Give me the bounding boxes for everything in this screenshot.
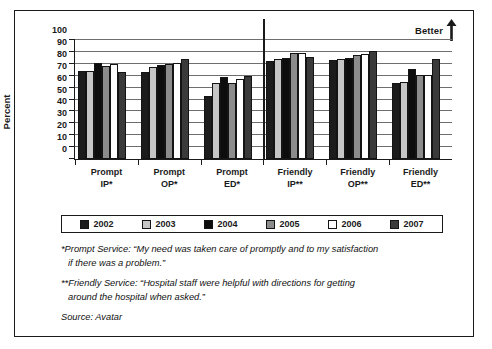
x-axis-group-label: PromptIP*	[91, 166, 123, 190]
better-label: Better	[415, 25, 443, 36]
footnote-friendly-line2: around the hospital when asked.”	[61, 291, 453, 305]
bar	[369, 51, 377, 159]
bar	[212, 83, 220, 159]
x-axis-tick	[75, 159, 76, 165]
bar	[157, 65, 165, 159]
up-arrow-icon	[446, 19, 457, 41]
bar	[86, 71, 94, 159]
bar	[118, 72, 126, 159]
y-axis-tick-label: 80	[57, 49, 67, 59]
legend-item[interactable]: 2002	[80, 219, 113, 229]
legend-swatch	[204, 220, 213, 229]
bar	[400, 82, 408, 159]
bar	[408, 69, 416, 159]
bar	[290, 53, 298, 159]
bar	[181, 59, 189, 159]
footnote-prompt-line2: if there was a problem.”	[61, 257, 453, 271]
bar-group: FriendlyOP**	[326, 40, 389, 159]
bar	[78, 71, 86, 159]
bar	[329, 60, 337, 159]
legend-label: 2005	[279, 219, 299, 229]
legend-swatch	[142, 220, 151, 229]
x-axis-group-label-line: IP**	[277, 178, 312, 190]
bar	[94, 63, 102, 159]
bar	[361, 54, 369, 159]
bar	[141, 72, 149, 159]
x-axis-tick	[138, 159, 139, 165]
bar	[173, 63, 181, 159]
x-axis-group-label-line: Friendly	[277, 166, 312, 178]
legend-swatch	[80, 220, 89, 229]
legend-label: 2003	[155, 219, 175, 229]
x-axis-group-label-line: OP*	[153, 178, 185, 190]
bar	[236, 79, 244, 159]
x-axis-group-label-line: Prompt	[153, 166, 185, 178]
bar	[424, 75, 432, 159]
x-axis-group-label: PromptOP*	[153, 166, 185, 190]
bar	[298, 53, 306, 159]
bar	[337, 59, 345, 159]
legend-label: 2006	[341, 219, 361, 229]
y-axis-tick-label: 20	[57, 120, 67, 130]
x-axis-group-label-line: ED**	[403, 178, 438, 190]
legend-swatch	[390, 220, 399, 229]
bar	[353, 55, 361, 159]
footnotes: *Prompt Service: “My need was taken care…	[61, 243, 453, 325]
bar	[220, 77, 228, 159]
bar-group: PromptIP*	[75, 40, 138, 159]
bar	[266, 61, 274, 159]
x-axis-tick	[201, 159, 202, 165]
y-axis-tick-label: 100	[52, 25, 67, 35]
footnote-friendly-line1: **Friendly Service: “Hospital staff were…	[61, 278, 355, 288]
legend-item[interactable]: 2006	[328, 219, 361, 229]
bar-group: FriendlyIP**	[263, 40, 326, 159]
bar	[432, 59, 440, 159]
legend-label: 2007	[403, 219, 423, 229]
y-axis-tick-label: 40	[57, 96, 67, 106]
legend-item[interactable]: 2005	[266, 219, 299, 229]
legend-label: 2004	[217, 219, 237, 229]
x-axis-group-label: FriendlyOP**	[340, 166, 375, 190]
x-axis-tick	[389, 159, 390, 165]
bar	[149, 67, 157, 159]
y-axis-title: Percent	[1, 94, 12, 129]
y-axis-tick-label: 90	[57, 37, 67, 47]
bar-group: PromptOP*	[138, 40, 201, 159]
chart-frame: Better Percent 0102030405060708090100 Pr…	[14, 10, 474, 337]
bar	[282, 58, 290, 159]
footnote-prompt: *Prompt Service: “My need was taken care…	[61, 243, 453, 270]
y-axis-tick-label: 50	[57, 85, 67, 95]
y-axis-tick-label: 10	[57, 132, 67, 142]
footnote-prompt-line1: *Prompt Service: “My need was taken care…	[61, 244, 378, 254]
bar-groups: PromptIP*PromptOP*PromptED*FriendlyIP**F…	[75, 40, 452, 159]
x-axis-group-label-line: Prompt	[91, 166, 123, 178]
y-axis-tick-label: 60	[57, 73, 67, 83]
x-axis-group-label-line: IP*	[91, 178, 123, 190]
bar	[228, 83, 236, 159]
plot-region: 0102030405060708090100 PromptIP*PromptOP…	[74, 40, 452, 160]
legend-item[interactable]: 2003	[142, 219, 175, 229]
bar	[416, 75, 424, 159]
bar	[345, 58, 353, 159]
footnote-friendly: **Friendly Service: “Hospital staff were…	[61, 277, 453, 304]
y-axis-tick-label: 0	[62, 144, 67, 154]
y-axis-tick-label: 70	[57, 61, 67, 71]
better-annotation: Better	[415, 19, 457, 41]
x-axis-group-label-line: Friendly	[340, 166, 375, 178]
source-label: Source: Avatar	[61, 311, 453, 325]
bar-group: PromptED*	[201, 40, 264, 159]
y-axis-tick-label: 30	[57, 108, 67, 118]
bar	[165, 64, 173, 159]
x-axis-group-label: FriendlyED**	[403, 166, 438, 190]
bar	[274, 59, 282, 159]
x-axis-group-label: PromptED*	[216, 166, 248, 190]
bar	[204, 96, 212, 159]
x-axis-group-label-line: ED*	[216, 178, 248, 190]
legend-item[interactable]: 2007	[390, 219, 423, 229]
x-axis-group-label-line: Friendly	[403, 166, 438, 178]
chart-area: Better Percent 0102030405060708090100 Pr…	[27, 19, 463, 204]
bar	[306, 57, 314, 159]
legend-item[interactable]: 2004	[204, 219, 237, 229]
x-axis-group-label-line: Prompt	[216, 166, 248, 178]
bar	[244, 76, 252, 159]
